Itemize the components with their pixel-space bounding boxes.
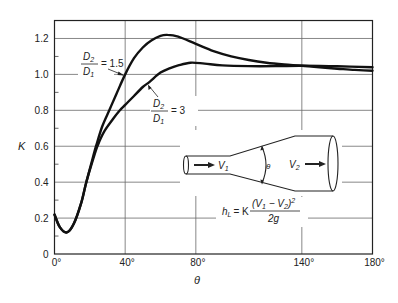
svg-text:2g: 2g (267, 213, 280, 224)
y-tick-labels: 00.20.40.60.81.01.2 (35, 33, 49, 260)
angle-label: θ (266, 162, 271, 171)
x-tick-label: 80° (190, 257, 205, 268)
x-tick-label: 40° (120, 257, 135, 268)
x-tick-label: 0° (52, 257, 62, 268)
y-tick-label: 0.6 (35, 141, 49, 152)
x-axis-label: θ (194, 274, 200, 286)
y-tick-label: 0.4 (35, 177, 49, 188)
loss-coefficient-chart: 00.20.40.60.81.01.2 0°40°80°140°180° K θ… (0, 0, 398, 303)
svg-text:= 3: = 3 (171, 105, 186, 116)
svg-text:= 1.5: = 1.5 (101, 58, 124, 69)
svg-text:hL= K: hL= K (222, 206, 249, 218)
y-tick-label: 0.2 (35, 213, 49, 224)
x-tick-labels: 0°40°80°140°180° (52, 257, 385, 268)
y-tick-label: 1.0 (35, 69, 49, 80)
x-tick-label: 180° (364, 257, 385, 268)
x-tick-label: 140° (293, 257, 314, 268)
y-tick-label: 0 (43, 249, 49, 260)
y-tick-label: 0.8 (35, 105, 49, 116)
y-tick-label: 1.2 (35, 33, 49, 44)
svg-text:(V1 − V2)2: (V1 − V2)2 (252, 197, 295, 210)
y-axis-label: K (18, 140, 26, 152)
